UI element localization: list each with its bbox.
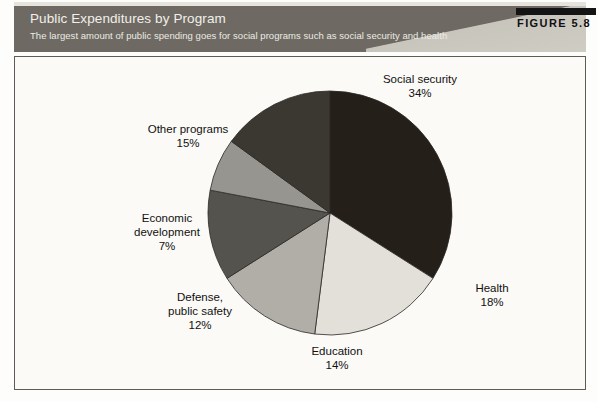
pie-label-defense-public-safety: Defense, public safety 12%	[140, 290, 260, 332]
pie-label-economic-value: 7%	[112, 239, 222, 253]
pie-label-other-programs: Other programs 15%	[118, 122, 258, 150]
pie-label-social-security: Social security 34%	[355, 72, 485, 100]
figure-page: Public Expenditures by Program The large…	[0, 0, 598, 402]
pie-label-education: Education 14%	[282, 344, 392, 372]
pie-label-social-security-value: 34%	[355, 86, 485, 100]
pie-label-economic-text-line2: development	[134, 226, 200, 238]
pie-label-other-value: 15%	[118, 136, 258, 150]
chart-frame	[14, 56, 586, 390]
header-band: Public Expenditures by Program The large…	[14, 6, 586, 52]
pie-label-other-text: Other programs	[148, 123, 229, 135]
pie-label-education-value: 14%	[282, 358, 392, 372]
pie-label-economic-text-line1: Economic	[142, 212, 193, 224]
pie-label-social-security-text: Social security	[383, 73, 457, 85]
pie-label-education-text: Education	[311, 345, 362, 357]
figure-number: FIGURE 5.8	[510, 17, 598, 29]
page-title: Public Expenditures by Program	[30, 11, 226, 26]
pie-label-defense-text-line1: Defense,	[177, 291, 223, 303]
page-subtitle: The largest amount of public spending go…	[30, 30, 447, 41]
pie-label-health-text: Health	[475, 282, 508, 294]
pie-label-defense-value: 12%	[140, 318, 260, 332]
figure-badge-bar	[516, 8, 596, 15]
pie-label-defense-text-line2: public safety	[168, 305, 232, 317]
pie-label-health: Health 18%	[452, 281, 532, 309]
pie-label-health-value: 18%	[452, 295, 532, 309]
pie-label-economic-development: Economic development 7%	[112, 211, 222, 253]
figure-badge: FIGURE 5.8	[510, 8, 598, 29]
